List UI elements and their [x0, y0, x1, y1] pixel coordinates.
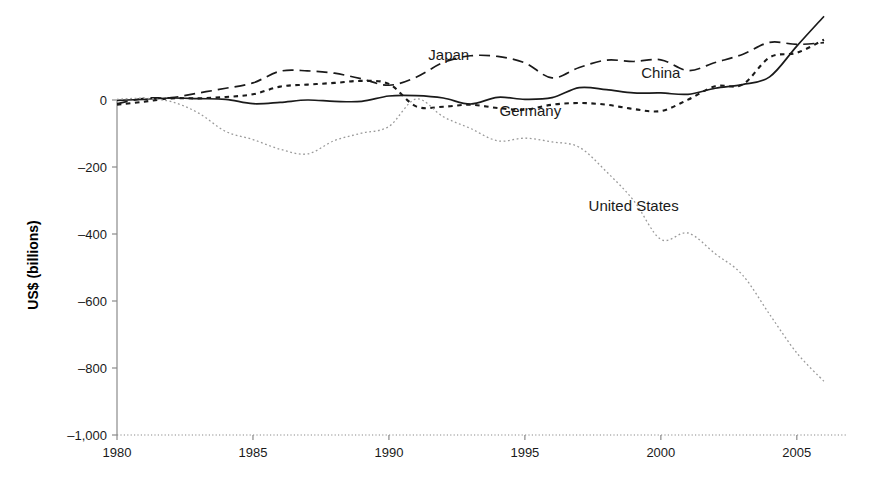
series-label-united-states: United States: [589, 197, 679, 214]
line-chart: 0–200–400–600–800–1,000 1980198519901995…: [0, 0, 870, 495]
y-tick-label: 0: [100, 93, 107, 108]
series-label-china: China: [641, 64, 681, 81]
y-tick-label: –400: [78, 227, 107, 242]
chart-background: [0, 0, 870, 495]
x-tick-label: 2000: [646, 445, 675, 460]
y-tick-label: –800: [78, 361, 107, 376]
y-tick-label: –600: [78, 294, 107, 309]
x-tick-label: 1995: [510, 445, 539, 460]
x-tick-label: 2005: [782, 445, 811, 460]
chart-container: 0–200–400–600–800–1,000 1980198519901995…: [0, 0, 870, 495]
x-tick-label: 1980: [103, 445, 132, 460]
y-axis-title: US$ (billions): [25, 220, 41, 309]
series-label-germany: Germany: [499, 102, 561, 119]
x-tick-label: 1990: [374, 445, 403, 460]
y-tick-label: –200: [78, 160, 107, 175]
x-tick-label: 1985: [239, 445, 268, 460]
y-tick-label: –1,000: [67, 428, 107, 443]
series-label-japan: Japan: [428, 46, 469, 63]
